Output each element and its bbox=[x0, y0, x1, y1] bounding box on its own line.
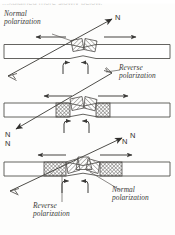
label-reverse-polarization-bottom: Reverse polarization bbox=[33, 202, 70, 218]
panel-3-reverse-block-right bbox=[100, 162, 122, 176]
label-north-middle-right: N bbox=[130, 132, 135, 140]
panel-2-field-arrow-north bbox=[16, 68, 112, 130]
panel-3-reverse-block-left bbox=[44, 162, 66, 176]
panel-1-normal-block-right bbox=[84, 39, 97, 52]
panel-2-normal-block-right bbox=[96, 103, 110, 117]
label-reverse-polarization-middle: Reverse polarization bbox=[119, 64, 156, 80]
panel-2-upwelling-hook-left bbox=[64, 121, 71, 133]
label-north-top-right: N bbox=[115, 14, 120, 22]
panel-1-upwelling-hook-left bbox=[63, 63, 70, 75]
label-normal-polarization-top: Normal polarization bbox=[4, 10, 41, 26]
panel-1-upwelling-hook-right bbox=[81, 63, 88, 75]
seafloor-spreading-figure: ...xplained more slowly below. Normal po… bbox=[0, 0, 175, 235]
label-north-middle-left: N bbox=[5, 131, 10, 139]
label-normal-polarization-bottom: Normal polarization bbox=[112, 186, 149, 202]
panel-2-reverse-block-left bbox=[70, 97, 84, 111]
panel-2-reverse-block-right bbox=[84, 97, 97, 111]
panel-2-leader-reverse bbox=[106, 70, 120, 72]
caption-fragment-top: ...xplained more slowly below. bbox=[2, 0, 174, 5]
panel-1-leader-normal bbox=[52, 34, 72, 41]
panel-3-upwelling-hook-left bbox=[62, 181, 69, 193]
panel-2-normal-block-left bbox=[56, 103, 70, 117]
panel-2-upwelling-hook-right bbox=[82, 121, 89, 133]
label-north-bottom-right: N bbox=[122, 138, 127, 146]
panel-3-upwelling-hook-right bbox=[81, 181, 88, 193]
label-north-bottom-left: N bbox=[5, 140, 10, 148]
